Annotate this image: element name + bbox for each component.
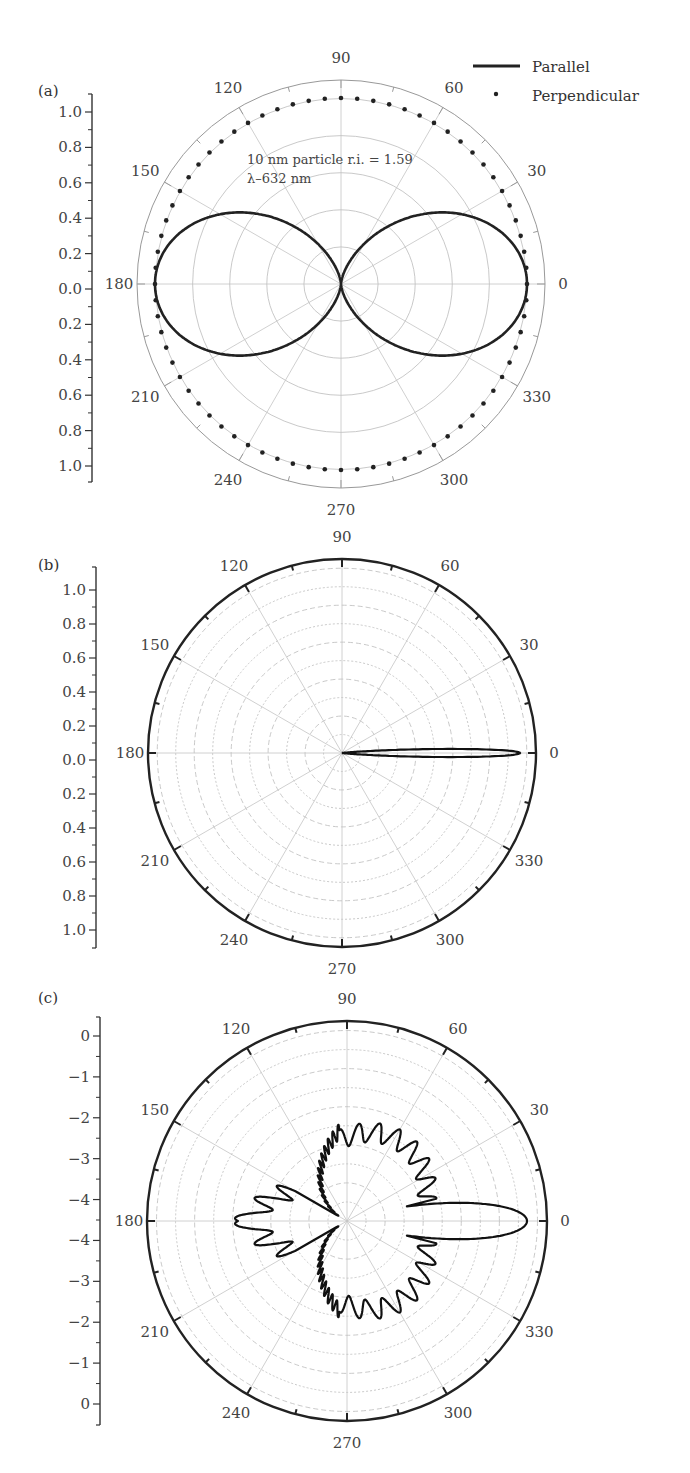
angle-tick — [443, 1387, 447, 1394]
axis-tick-label: 1.0 — [58, 457, 82, 475]
angle-tick — [482, 425, 486, 429]
angle-tick — [197, 140, 201, 144]
angle-tick — [533, 231, 538, 232]
grid-spoke — [342, 585, 439, 753]
angle-tick — [155, 703, 160, 704]
angle-tick — [511, 382, 518, 386]
axis-tick-label: 0.4 — [58, 351, 82, 369]
angle-tick — [197, 425, 201, 429]
axis-tick-label: −3 — [68, 1272, 90, 1290]
angle-label-90: 90 — [332, 528, 351, 546]
angle-label-240: 240 — [220, 931, 249, 949]
angle-tick — [247, 1387, 251, 1394]
angle-label-0: 0 — [558, 275, 568, 293]
angle-label-60: 60 — [440, 557, 459, 575]
axis-tick-label: −3 — [68, 1150, 90, 1168]
grid-spoke — [245, 753, 342, 921]
angle-tick — [525, 703, 530, 704]
angle-label-270: 270 — [327, 501, 356, 519]
grid-spoke — [342, 753, 510, 850]
grid-spoke — [341, 107, 443, 284]
angle-tick — [245, 585, 249, 592]
panel-label-c: (c) — [38, 989, 58, 1007]
angle-tick — [174, 656, 181, 660]
axis-tick-label: 0.6 — [62, 649, 86, 667]
angle-tick — [435, 585, 439, 592]
angle-tick — [247, 1048, 251, 1055]
axis-tick-label: 0.4 — [62, 683, 86, 701]
angle-tick — [476, 887, 480, 891]
panel-a: 03060901201501802102402703003301.00.80.6… — [58, 49, 568, 519]
angle-tick — [205, 887, 209, 891]
angle-label-60: 60 — [444, 79, 463, 97]
angle-label-180: 180 — [105, 275, 134, 293]
panel-label-b: (b) — [38, 556, 59, 574]
polar-figure: 03060901201501802102402703003301.00.80.6… — [0, 0, 690, 1473]
axis-tick-label: 0.4 — [58, 209, 82, 227]
angle-label-210: 210 — [140, 1323, 169, 1341]
axis-tick-label: −4 — [68, 1231, 90, 1249]
angle-tick — [245, 914, 249, 921]
angle-label-120: 120 — [214, 79, 243, 97]
axis-tick-label: −4 — [68, 1191, 90, 1209]
axis-tick-label: 0.2 — [62, 785, 86, 803]
axis-tick-label: 0.8 — [58, 422, 82, 440]
axis-tick-label: 1.0 — [62, 581, 86, 599]
grid-spoke — [239, 107, 341, 284]
angle-tick — [391, 936, 392, 941]
angle-tick — [397, 1409, 398, 1414]
angle-tick — [174, 1121, 181, 1125]
axis-tick-label: 0.0 — [62, 751, 86, 769]
angle-label-180: 180 — [116, 744, 145, 762]
angle-label-150: 150 — [141, 636, 170, 654]
axis-tick-label: −1 — [68, 1354, 90, 1372]
angle-tick — [503, 656, 510, 660]
angle-tick — [435, 914, 439, 921]
angle-tick — [144, 231, 149, 232]
axis-tick-label: 0.2 — [62, 717, 86, 735]
angle-label-330: 330 — [525, 1323, 554, 1341]
angle-label-120: 120 — [222, 1020, 251, 1038]
axis-tick-label: −1 — [68, 1068, 90, 1086]
axis-tick-label: 0.6 — [58, 174, 82, 192]
angle-tick — [239, 107, 243, 114]
axis-tick-label: −2 — [68, 1313, 90, 1331]
angle-label-330: 330 — [515, 852, 544, 870]
angle-label-30: 30 — [527, 162, 546, 180]
angle-tick — [288, 87, 289, 92]
axis-tick-label: 0.2 — [58, 315, 82, 333]
grid-spoke — [164, 284, 341, 386]
panel-c: 03060901201501802102402703003300−1−2−3−4… — [68, 990, 570, 1452]
angle-tick — [154, 1271, 159, 1272]
angle-tick — [525, 802, 530, 803]
angle-tick — [391, 566, 392, 571]
angle-label-60: 60 — [448, 1020, 467, 1038]
angle-label-180: 180 — [115, 1212, 144, 1230]
angle-tick — [476, 616, 480, 620]
axis-tick-label: 0.8 — [58, 138, 82, 156]
grid-spoke — [341, 284, 443, 461]
angle-tick — [205, 616, 209, 620]
axis-tick-label: 0.6 — [58, 386, 82, 404]
angle-tick — [513, 1317, 520, 1321]
angle-label-300: 300 — [444, 1404, 473, 1422]
angle-label-210: 210 — [141, 852, 170, 870]
axis-tick-label: 1.0 — [62, 921, 86, 939]
angle-tick — [174, 1317, 181, 1321]
grid-spoke — [342, 753, 439, 921]
panel-b: 03060901201501802102402703003301.00.80.6… — [62, 528, 559, 978]
grid-spoke — [341, 182, 518, 284]
axis-tick-label: 0.2 — [58, 245, 82, 263]
angle-label-0: 0 — [549, 744, 559, 762]
angle-tick — [513, 1121, 520, 1125]
legend-perpendicular-label: Perpendicular — [532, 87, 640, 105]
grid-spoke — [341, 284, 518, 386]
angle-label-240: 240 — [214, 471, 243, 489]
angle-label-30: 30 — [530, 1101, 549, 1119]
angle-tick — [439, 454, 443, 461]
angle-label-300: 300 — [440, 471, 469, 489]
angle-tick — [393, 87, 394, 92]
grid-spoke — [342, 656, 510, 753]
grid-spoke — [239, 284, 341, 461]
angle-label-90: 90 — [337, 990, 356, 1008]
